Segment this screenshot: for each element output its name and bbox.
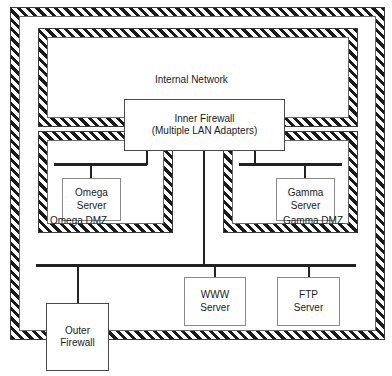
- cable-firewall-to-perimeter-bus: [203, 150, 205, 265]
- node-www-server: WWW Server: [184, 277, 246, 326]
- cable-omega-bus-to-omega-server: [90, 165, 92, 178]
- ftp-server-label-line2: Server: [294, 302, 323, 314]
- cable-perimeter-bus-to-ftp-server: [308, 266, 310, 277]
- node-ftp-server: FTP Server: [277, 277, 340, 326]
- gamma-server-label: Gamma Server: [288, 187, 324, 211]
- omega-server-label-line2: Server: [75, 200, 108, 212]
- omega-server-label: Omega Server: [75, 187, 108, 211]
- outer-firewall-label: Outer Firewall: [60, 325, 94, 349]
- cable-perimeter-bus-to-www-server: [214, 266, 216, 277]
- inner-firewall-label-line2: (Multiple LAN Adapters): [152, 125, 258, 137]
- ftp-server-label-line1: FTP: [294, 289, 323, 301]
- network-diagram: Internal Network Omega DMZ Gamma DMZ Inn…: [0, 0, 392, 376]
- omega-dmz-caption: Omega DMZ: [50, 215, 107, 226]
- www-server-label: WWW Server: [200, 289, 229, 313]
- inner-firewall-label-line1: Inner Firewall: [152, 113, 258, 125]
- www-server-label-line2: Server: [200, 302, 229, 314]
- gamma-dmz-caption: Gamma DMZ: [283, 215, 343, 226]
- omega-dmz-bus: [54, 163, 147, 166]
- cable-perimeter-bus-to-outer-firewall: [77, 266, 79, 304]
- node-inner-firewall: Inner Firewall (Multiple LAN Adapters): [124, 99, 285, 151]
- inner-firewall-label: Inner Firewall (Multiple LAN Adapters): [152, 113, 258, 137]
- gamma-server-label-line2: Server: [288, 200, 324, 212]
- cable-gamma-bus-to-gamma-server: [304, 165, 306, 178]
- outer-firewall-label-line1: Outer: [60, 325, 94, 337]
- www-server-label-line1: WWW: [200, 289, 229, 301]
- outer-firewall-label-line2: Firewall: [60, 337, 94, 349]
- omega-server-label-line1: Omega: [75, 187, 108, 199]
- ftp-server-label: FTP Server: [294, 289, 323, 313]
- gamma-dmz-bus: [239, 163, 342, 166]
- node-outer-firewall: Outer Firewall: [46, 303, 109, 371]
- gamma-server-label-line1: Gamma: [288, 187, 324, 199]
- internal-network-caption: Internal Network: [155, 74, 228, 85]
